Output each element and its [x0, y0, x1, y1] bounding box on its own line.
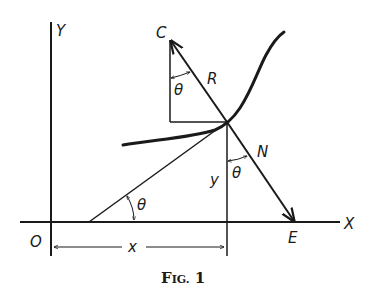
figure-1-diagram: Y X O x θ θ θ C R N E y FIG.1: [0, 0, 377, 298]
x-axis-label: X: [343, 215, 355, 233]
angle-arc-top: [171, 72, 190, 78]
angle-middle-label: θ: [232, 164, 241, 182]
angle-bottom-label: θ: [137, 196, 146, 214]
center-label: C: [156, 24, 167, 42]
figure-caption: FIG.1: [161, 269, 205, 287]
angle-top-label: θ: [174, 81, 183, 99]
normal-foot-label: E: [288, 229, 298, 247]
tangent-line: [89, 122, 227, 222]
caption-smallcaps: IG.: [172, 273, 190, 286]
radius-label: R: [207, 70, 217, 88]
abscissa-label: x: [127, 238, 137, 256]
caption-prefix: F: [161, 269, 172, 287]
origin-label: O: [30, 233, 42, 251]
ordinate-label: y: [209, 171, 220, 189]
y-axis-label: Y: [56, 22, 67, 40]
angle-arc-bottom: [127, 196, 134, 220]
caption-number: 1: [195, 269, 205, 287]
normal-label: N: [257, 143, 268, 161]
angle-arc-middle: [228, 156, 247, 161]
